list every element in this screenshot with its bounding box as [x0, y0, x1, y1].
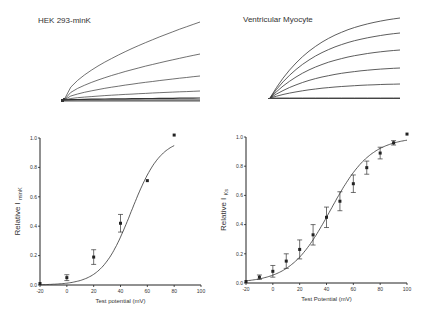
x-tick-label: 80	[377, 286, 383, 292]
myocyte-traces	[268, 18, 400, 99]
y-tick-label: 0.2	[236, 251, 243, 257]
figure-canvas: 0.00.20.40.60.81.0-20020406080100Test po…	[0, 0, 424, 318]
data-point	[92, 256, 95, 259]
y-tick-label: 0.8	[30, 164, 37, 170]
data-point	[39, 282, 42, 285]
x-tick-label: 0	[65, 288, 68, 294]
y-tick-label: 0.0	[236, 280, 243, 286]
data-point	[65, 276, 68, 279]
y-tick-label: 0.4	[30, 223, 37, 229]
y-tick-label: 0.2	[30, 252, 37, 258]
y-tick-label: 0.6	[236, 192, 243, 198]
data-point	[119, 222, 122, 225]
y-axis-label: Relative I minK	[13, 187, 23, 235]
x-tick-label: 40	[324, 286, 330, 292]
y-tick-label: 0.4	[236, 221, 243, 227]
x-tick-label: 20	[297, 286, 303, 292]
data-point	[146, 179, 149, 182]
y-tick-label: 0.0	[30, 282, 37, 288]
data-point	[298, 248, 301, 251]
x-tick-label: 40	[118, 288, 124, 294]
y-axis-label: Relative I Ks	[219, 189, 229, 231]
x-tick-label: -20	[242, 286, 249, 292]
data-point	[271, 270, 274, 273]
data-point	[406, 133, 409, 136]
data-point	[173, 134, 176, 137]
hek-traces	[61, 22, 200, 102]
x-tick-label: 100	[403, 286, 412, 292]
x-tick-label: 20	[91, 288, 97, 294]
data-point	[379, 152, 382, 155]
x-tick-label: 0	[271, 286, 274, 292]
x-tick-label: 100	[197, 288, 206, 294]
x-tick-label: 80	[171, 288, 177, 294]
data-point	[285, 260, 288, 263]
data-point	[392, 141, 395, 144]
data-point	[338, 200, 341, 203]
y-tick-label: 0.8	[236, 163, 243, 169]
x-axis-label: Test Potential (mV)	[301, 296, 352, 302]
data-point	[312, 233, 315, 236]
data-point	[325, 216, 328, 219]
data-point	[258, 276, 261, 279]
data-point	[365, 166, 368, 169]
y-tick-label: 1.0	[236, 134, 243, 140]
x-tick-label: 60	[351, 286, 357, 292]
chart-IKs-activation: 0.00.20.40.60.81.0-20020406080100Test Po…	[219, 133, 411, 302]
x-tick-label: -20	[36, 288, 43, 294]
data-point	[245, 280, 248, 283]
x-axis-label: Test potential (mV)	[95, 298, 145, 304]
x-tick-label: 60	[145, 288, 151, 294]
chart-minK-activation: 0.00.20.40.60.81.0-20020406080100Test po…	[13, 134, 205, 304]
y-tick-label: 0.6	[30, 194, 37, 200]
fit-curve	[40, 146, 174, 285]
data-point	[352, 182, 355, 185]
y-tick-label: 1.0	[30, 135, 37, 141]
